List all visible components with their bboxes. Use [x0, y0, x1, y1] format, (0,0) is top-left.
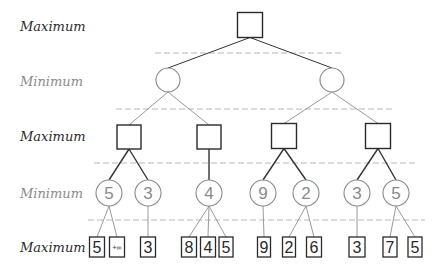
- leaf-value: 3: [353, 239, 362, 256]
- level-label-min: Minimum: [19, 74, 83, 89]
- max-node: [238, 13, 263, 38]
- max-node: [272, 124, 297, 149]
- min-node: 4: [196, 180, 222, 206]
- max-node: [366, 124, 391, 149]
- min-node-value: 4: [204, 184, 213, 203]
- level-label-max: Maximum: [19, 240, 86, 255]
- min-node-value: 9: [258, 184, 267, 203]
- tree-edge: [109, 149, 129, 180]
- min-node: 5: [96, 180, 122, 206]
- leaf-value: +∞: [112, 244, 121, 251]
- leaf-node: 5: [90, 237, 105, 257]
- tree-edge: [97, 206, 109, 237]
- level-labels: MaximumMinimumMaximumMinimumMaximum: [19, 19, 86, 255]
- leaf-node: 3: [141, 237, 156, 257]
- min-node: 3: [135, 180, 161, 206]
- level-label-min: Minimum: [19, 186, 83, 201]
- leaf-node: 9: [258, 237, 271, 257]
- leaf-value: 7: [386, 239, 395, 256]
- max-node: [117, 125, 141, 149]
- min-node: [320, 68, 344, 92]
- leaf-value: 5: [411, 239, 420, 256]
- tree-edge: [332, 92, 378, 124]
- min-node-value: 2: [301, 184, 310, 203]
- leaf-node: 5: [408, 237, 422, 257]
- leaf-node: +∞: [110, 237, 125, 257]
- tree-edge: [306, 206, 314, 237]
- min-node: [156, 68, 180, 92]
- tree-edge: [208, 206, 209, 237]
- level-label-max: Maximum: [19, 129, 86, 144]
- leaf-node: 4: [201, 237, 216, 257]
- tree-edge: [284, 149, 306, 181]
- tree-edge: [284, 92, 332, 124]
- leaf-node: 2: [283, 237, 296, 257]
- leaf-node: 7: [383, 237, 397, 257]
- leaf-value: 5: [222, 239, 231, 256]
- leaf-node: 3: [349, 237, 365, 257]
- tree-edge: [189, 206, 209, 237]
- leaf-node: 6: [307, 237, 322, 257]
- leaf-value: 2: [285, 239, 294, 256]
- tree-edge: [390, 206, 396, 237]
- leaf-value: 8: [185, 239, 194, 256]
- min-node: 3: [344, 180, 370, 206]
- tree-edge: [289, 206, 306, 237]
- leaf-value: 9: [260, 239, 269, 256]
- tree-edge: [129, 149, 148, 180]
- max-node: [197, 125, 221, 149]
- min-node-value: 3: [143, 184, 152, 203]
- leaf-value: 4: [204, 239, 213, 256]
- tree-edge: [263, 206, 264, 237]
- level-label-max: Maximum: [19, 19, 86, 34]
- tree-edge: [263, 149, 284, 181]
- min-node-value: 5: [391, 184, 400, 203]
- min-node: 5: [383, 180, 409, 206]
- leaf-node: 8: [182, 237, 197, 257]
- leaf-value: 3: [144, 239, 153, 256]
- minimax-tree-diagram: 53492355+∞3845926375 MaximumMinimumMaxim…: [0, 0, 445, 273]
- tree-edge: [378, 149, 396, 181]
- leaf-node: 5: [219, 237, 233, 257]
- tree-edge: [109, 206, 117, 237]
- leaf-value: 6: [310, 239, 319, 256]
- min-node: 2: [293, 180, 319, 206]
- min-node: 9: [250, 180, 276, 206]
- leaf-value: 5: [93, 239, 102, 256]
- tree-edge: [357, 149, 378, 181]
- min-node-value: 5: [104, 184, 113, 203]
- tree-edge: [209, 206, 226, 237]
- min-node-value: 3: [352, 184, 361, 203]
- tree-edge: [396, 206, 415, 237]
